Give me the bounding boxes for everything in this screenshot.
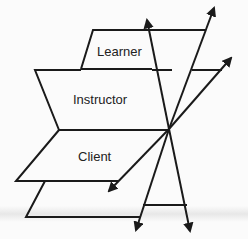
arrows — [109, 8, 231, 231]
arrow-right-icon — [169, 58, 231, 129]
client-label: Client — [78, 149, 112, 164]
perspective-planes-diagram: Learner Instructor Client — [0, 0, 248, 239]
arrow-down-icon — [136, 129, 169, 230]
arrow-down-left-icon — [109, 129, 169, 191]
base-plane — [26, 181, 187, 217]
arrow-up-left-icon — [147, 20, 169, 129]
arrow-down-right-icon — [169, 129, 190, 231]
arrow-up-right-icon — [169, 8, 214, 129]
learner-label: Learner — [97, 44, 142, 59]
instructor-label: Instructor — [73, 92, 128, 107]
